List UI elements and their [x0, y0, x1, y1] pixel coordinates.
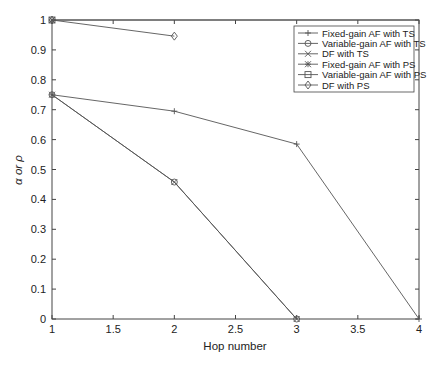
y-tick-label: 1 — [40, 14, 46, 26]
line-chart: 11.522.533.5400.10.20.30.40.50.60.70.80.… — [0, 0, 437, 365]
x-axis-label: Hop number — [203, 340, 266, 352]
legend-label: Fixed-gain AF with PS — [322, 59, 415, 70]
x-tick-label: 1 — [49, 323, 55, 335]
x-tick-label: 2.5 — [228, 323, 243, 335]
data-point-marker — [171, 108, 177, 114]
legend-marker — [305, 61, 311, 67]
x-tick-label: 2 — [171, 323, 177, 335]
y-tick-label: 0.4 — [31, 193, 46, 205]
y-tick-label: 0.5 — [31, 164, 46, 176]
series-line — [52, 95, 419, 319]
x-tick-label: 3.5 — [350, 323, 365, 335]
y-axis-label: α or ρ — [12, 155, 24, 185]
series-x — [49, 92, 300, 322]
legend-label: Variable-gain AF with TS — [322, 38, 426, 49]
series-plus — [49, 92, 422, 322]
legend-label: DF with TS — [322, 48, 369, 59]
y-tick-label: 0.1 — [31, 283, 46, 295]
legend-label: DF with PS — [322, 80, 370, 91]
series-line — [52, 95, 297, 319]
data-point-marker — [294, 141, 300, 147]
y-tick-label: 0 — [40, 313, 46, 325]
series-line — [52, 95, 297, 319]
legend-label: Fixed-gain AF with TS — [322, 28, 415, 39]
x-tick-label: 3 — [294, 323, 300, 335]
y-tick-label: 0.6 — [31, 134, 46, 146]
x-tick-label: 4 — [416, 323, 422, 335]
data-point-marker — [416, 316, 422, 322]
y-tick-label: 0.7 — [31, 104, 46, 116]
y-tick-label: 0.8 — [31, 74, 46, 86]
x-tick-label: 1.5 — [106, 323, 121, 335]
data-point-marker — [171, 179, 177, 185]
legend-label: Variable-gain AF with PS — [322, 69, 426, 80]
y-tick-label: 0.2 — [31, 253, 46, 265]
y-tick-label: 0.9 — [31, 44, 46, 56]
y-tick-label: 0.3 — [31, 223, 46, 235]
series-circle — [49, 92, 300, 322]
legend: Fixed-gain AF with TSVariable-gain AF wi… — [294, 26, 426, 92]
